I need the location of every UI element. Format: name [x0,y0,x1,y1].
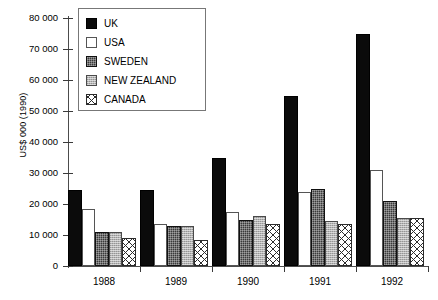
legend-swatch-usa-icon [86,37,97,48]
x-axis-tick-label: 1991 [290,276,350,287]
bar-newzealand-1992 [397,218,411,266]
x-axis-line [68,266,428,267]
y-axis-tick-label: 70 000 [0,44,58,53]
x-axis-tick [140,266,141,272]
y-axis-tick-label: 0 [0,261,58,270]
bar-usa-1992 [370,170,384,266]
bar-usa-1991 [298,192,312,266]
x-axis-tick-label: 1989 [146,276,206,287]
bar-uk-1992 [356,34,370,267]
bar-usa-1988 [82,209,96,266]
bar-newzealand-1989 [181,226,195,266]
bar-usa-1990 [226,212,240,266]
bar-uk-1988 [68,190,82,266]
x-axis-tick-label: 1990 [218,276,278,287]
y-axis-tick-label: 30 000 [0,168,58,177]
bar-canada-1989 [194,240,208,266]
bar-canada-1990 [266,224,280,266]
y-axis-tick-label: 10 000 [0,230,58,239]
legend-swatch-uk-icon [86,18,97,29]
bar-sweden-1988 [95,232,109,266]
y-axis-title: US$ 000 (1990) [18,50,28,200]
bar-sweden-1989 [167,226,181,266]
bar-uk-1990 [212,158,226,267]
bar-newzealand-1991 [325,221,339,266]
legend-item-canada: CANADA [86,90,205,109]
bar-canada-1988 [122,238,136,266]
legend-item-uk: UK [86,14,205,33]
legend-item-usa: USA [86,33,205,52]
bar-usa-1989 [154,224,168,266]
x-axis-tick [356,266,357,272]
y-axis-tick-label: 60 000 [0,75,58,84]
bar-uk-1991 [284,96,298,267]
legend-label: USA [104,37,125,48]
legend-label: CANADA [104,94,146,105]
legend-item-newzealand: NEW ZEALAND [86,71,205,90]
y-axis-tick-label: 40 000 [0,137,58,146]
bar-sweden-1990 [239,220,253,267]
y-axis-tick [63,266,73,267]
legend-swatch-newzealand-icon [86,75,97,86]
grouped-bar-chart: US$ 000 (1990) 010 00020 00030 00040 000… [0,0,438,300]
x-axis-tick [284,266,285,272]
legend: UKUSASWEDENNEW ZEALANDCANADA [78,8,206,111]
x-axis-tick-label: 1988 [74,276,134,287]
bar-newzealand-1988 [109,232,123,266]
x-axis-tick-label: 1992 [362,276,422,287]
bar-canada-1992 [410,218,424,266]
legend-swatch-sweden-icon [86,56,97,67]
y-axis-tick-label: 50 000 [0,106,58,115]
y-axis-tick-label: 20 000 [0,199,58,208]
y-axis-tick-label: 80 000 [0,13,58,22]
x-axis-tick [428,266,429,272]
bar-uk-1989 [140,190,154,266]
legend-label: UK [104,18,118,29]
legend-item-sweden: SWEDEN [86,52,205,71]
legend-label: NEW ZEALAND [104,75,176,86]
bar-sweden-1991 [311,189,325,267]
x-axis-tick [212,266,213,272]
legend-label: SWEDEN [104,56,148,67]
bar-newzealand-1990 [253,216,267,266]
legend-swatch-canada-icon [86,94,97,105]
bar-canada-1991 [338,224,352,266]
bar-sweden-1992 [383,201,397,266]
